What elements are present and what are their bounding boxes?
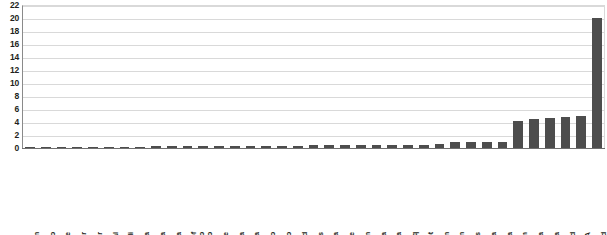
y-axis-tick-label: 22	[10, 1, 19, 10]
x-axis-tick-label: Australia	[553, 232, 561, 235]
x-axis-tick-label: Seychelles	[474, 232, 482, 235]
x-axis-tick-label: Burkina Faso	[49, 232, 57, 235]
bar	[246, 146, 256, 148]
x-axis-tick-label: Iraq	[411, 232, 419, 235]
x-axis-tick-label: Finland	[600, 232, 607, 235]
x-axis-tick-label: Kenya	[380, 232, 388, 235]
x-axis-tick-label: Lesotho	[206, 232, 214, 235]
bar	[561, 117, 571, 148]
bar	[230, 146, 240, 148]
x-axis-tick-label: Pakistan	[33, 232, 41, 235]
x-axis-tick-label: Madagascar	[80, 232, 88, 235]
bar	[293, 146, 303, 148]
x-axis-baseline	[22, 148, 605, 149]
x-axis-tick-label: Mauritius	[317, 232, 325, 235]
y-axis-tick-label: 12	[10, 66, 19, 75]
y-axis-tick-label: 6	[14, 105, 19, 114]
bar	[88, 147, 98, 148]
bar	[529, 119, 539, 148]
bar	[356, 145, 366, 148]
bar	[324, 145, 334, 148]
x-axis-tick-label: Canada	[537, 232, 545, 235]
bar	[25, 147, 35, 148]
x-axis-tick-label: Tunisia	[490, 232, 498, 235]
x-axis-tick-label: South Africa	[506, 232, 514, 235]
bar	[72, 147, 82, 148]
x-axis-tick-label: Rwanda	[143, 232, 151, 235]
x-axis-tick-label: Zambia	[332, 232, 340, 235]
bar	[183, 146, 193, 148]
y-axis-tick-label: 0	[14, 144, 19, 153]
y-axis-tick-label: 2	[14, 131, 19, 140]
y-axis-tick-label: 14	[10, 53, 19, 62]
x-axis-tick-label: Egypt	[427, 232, 435, 235]
bar	[167, 146, 177, 148]
bar	[57, 147, 67, 148]
bar	[214, 146, 224, 148]
bar	[466, 142, 476, 149]
x-axis-tick-label: United Kingdom	[521, 232, 529, 235]
x-axis-category-labels: PakistanBurkina FasoCote d'IvoireMadagas…	[22, 150, 605, 235]
bar	[261, 146, 271, 148]
x-axis-tick-label: Zimbabwe	[222, 232, 230, 235]
bar	[340, 145, 350, 148]
x-axis-tick-label: Nigeria	[238, 232, 246, 235]
bar	[513, 121, 523, 148]
x-axis-tick-label: Indonesia	[175, 232, 183, 235]
bar	[309, 145, 319, 148]
x-axis-tick-label: Swaziland	[301, 232, 309, 235]
bar	[576, 116, 586, 149]
x-axis-tick-label: Jordan	[364, 232, 372, 235]
bar	[545, 118, 555, 148]
x-axis-tick-label: Namibia	[395, 232, 403, 235]
x-axis-tick-label: Mali	[127, 232, 135, 235]
bar	[482, 142, 492, 149]
x-axis-tick-label: USA	[584, 232, 592, 235]
y-axis-tick-label: 16	[10, 40, 19, 49]
bar	[104, 147, 114, 148]
bar	[450, 142, 460, 149]
bar	[135, 147, 145, 148]
bar	[498, 142, 508, 149]
y-axis-tick-label: 10	[10, 79, 19, 88]
bar	[277, 146, 287, 148]
x-axis-tick-label: Sri Lanka	[253, 232, 261, 235]
bar-series	[22, 5, 605, 148]
x-axis-tick-label: New Zealand	[569, 232, 577, 235]
bar	[403, 145, 413, 148]
x-axis-tick-label: Oman	[443, 232, 451, 235]
x-axis-tick-label: Uganda	[159, 232, 167, 235]
bar	[198, 146, 208, 148]
x-axis-tick-label: Cote d'Ivoire	[64, 232, 72, 235]
y-axis-tick-label: 18	[10, 27, 19, 36]
bar	[387, 145, 397, 148]
x-axis-tick-label: Senegal	[112, 232, 120, 235]
x-axis-tick-label: Myanmar	[96, 232, 104, 235]
bar	[372, 145, 382, 148]
y-axis-tick-label: 20	[10, 14, 19, 23]
bar	[151, 146, 161, 148]
y-axis-tick-label: 8	[14, 92, 19, 101]
x-axis-tick-label: Bahrain	[458, 232, 466, 235]
bar	[41, 147, 51, 148]
bar	[120, 147, 130, 148]
y-axis: 0246810121416182022	[0, 0, 20, 150]
x-axis-tick-label: Cape Verde	[348, 232, 356, 235]
x-axis-tick-label: Democratic Republic of the Congo	[190, 232, 205, 235]
bar-chart: 0246810121416182022 PakistanBurkina Faso…	[0, 0, 607, 235]
x-axis-tick-label: Togo	[269, 232, 277, 235]
bar	[592, 18, 602, 148]
bar	[435, 144, 445, 148]
y-axis-tick-label: 4	[14, 118, 19, 127]
bar	[419, 145, 429, 148]
x-axis-tick-label: Morocco	[285, 232, 293, 235]
